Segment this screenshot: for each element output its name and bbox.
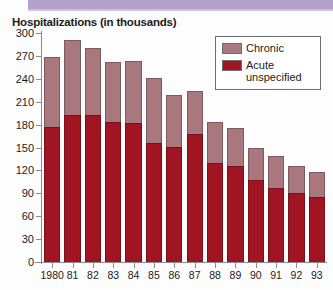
x-axis-tick-mark [296,263,297,268]
y-axis-tick-mark [36,56,42,57]
y-axis-tick-mark [36,102,42,103]
bar-segment-chronic[interactable] [288,166,304,194]
x-axis-tick-label: 84 [128,269,140,281]
header-band [28,0,333,9]
acute-swatch-icon [222,60,242,71]
x-axis-tick-label: 92 [291,269,303,281]
bar-segment-acute[interactable] [248,180,264,262]
x-axis-tick-mark [93,263,94,268]
x-axis-tick-label: 87 [189,269,201,281]
bar-group[interactable] [207,122,223,262]
x-axis-tick-mark [215,263,216,268]
y-axis-tick-label: 60 [4,210,34,222]
legend: Chronic Acute unspecified [215,36,321,90]
bar-group[interactable] [105,62,121,262]
x-axis-tick-label: 1980 [40,269,63,281]
y-axis-tick-mark [36,170,42,171]
header-band-edge [28,9,333,11]
x-axis-tick-mark [174,263,175,268]
y-axis-tick-mark [36,239,42,240]
y-axis-tick-label: 240 [4,73,34,85]
bar-segment-acute[interactable] [64,115,80,262]
bar-segment-acute[interactable] [125,123,141,262]
bar-segment-chronic[interactable] [166,95,182,149]
legend-label-acute: Acute unspecified [246,59,315,83]
bar-segment-chronic[interactable] [207,122,223,163]
y-axis-tick-label: 300 [4,27,34,39]
x-axis-tick-mark [256,263,257,268]
bar-segment-acute[interactable] [146,143,162,262]
y-axis-tick-label: 180 [4,119,34,131]
x-axis-tick-label: 86 [168,269,180,281]
x-axis-tick-mark [154,263,155,268]
x-axis-tick-mark [235,263,236,268]
y-axis-tick-mark [36,193,42,194]
y-axis-labels: 3002702402101801501209060300 [0,0,34,290]
bar-segment-chronic[interactable] [187,91,203,135]
bar-segment-chronic[interactable] [85,48,101,116]
bar-segment-chronic[interactable] [64,40,80,117]
bar-segment-acute[interactable] [288,193,304,262]
x-axis-tick-label: 89 [230,269,242,281]
y-axis-tick-label: 150 [4,142,34,154]
y-axis-tick-label: 120 [4,164,34,176]
x-axis-tick-label: 83 [107,269,119,281]
bar-segment-acute[interactable] [207,163,223,262]
legend-label-chronic: Chronic [246,42,284,54]
page-title: Hospitalizations (in thousands) [12,16,176,28]
y-axis-tick-mark [36,262,42,263]
bar-segment-chronic[interactable] [227,128,243,167]
chart-page: Hospitalizations (in thousands) 30027024… [0,0,333,290]
bar-group[interactable] [309,172,325,262]
x-axis-tick-label: 85 [148,269,160,281]
bar-group[interactable] [248,148,264,262]
x-axis-tick-mark [195,263,196,268]
bar-group[interactable] [44,57,60,262]
y-axis-tick-mark [36,33,42,34]
x-axis-tick-label: 82 [87,269,99,281]
bar-group[interactable] [187,91,203,262]
bar-group[interactable] [227,128,243,262]
x-axis-tick-mark [113,263,114,268]
bar-group[interactable] [146,78,162,262]
legend-item-acute: Acute unspecified [222,59,315,83]
bar-group[interactable] [288,166,304,262]
x-axis-tick-mark [276,263,277,268]
bar-segment-chronic[interactable] [146,78,162,144]
x-axis-tick-label: 88 [209,269,221,281]
y-axis-tick-mark [36,79,42,80]
bar-segment-acute[interactable] [187,134,203,262]
bar-segment-chronic[interactable] [309,172,325,198]
bar-group[interactable] [268,156,284,262]
bar-segment-chronic[interactable] [268,156,284,189]
bar-group[interactable] [125,61,141,262]
bar-segment-chronic[interactable] [44,57,60,127]
bar-segment-acute[interactable] [268,188,284,262]
y-axis-tick-mark [36,216,42,217]
y-axis-tick-label: 210 [4,96,34,108]
bar-group[interactable] [166,95,182,262]
x-axis-tick-label: 93 [311,269,323,281]
bar-segment-acute[interactable] [44,127,60,262]
y-axis-tick-mark [36,125,42,126]
x-axis-tick-mark [317,263,318,268]
x-axis-tick-mark [73,263,74,268]
bar-segment-acute[interactable] [309,197,325,262]
x-axis-tick-mark [52,263,53,268]
bar-group[interactable] [64,40,80,262]
chronic-swatch-icon [222,43,242,54]
y-axis-tick-label: 90 [4,187,34,199]
bar-segment-acute[interactable] [227,166,243,262]
bar-group[interactable] [85,48,101,262]
bar-segment-acute[interactable] [166,147,182,262]
x-axis-tick-label: 90 [250,269,262,281]
bar-segment-chronic[interactable] [125,61,141,124]
legend-item-chronic: Chronic [222,42,315,54]
x-axis-tick-label: 81 [67,269,79,281]
bar-segment-acute[interactable] [85,115,101,262]
y-axis-tick-mark [36,148,42,149]
x-axis-tick-mark [134,263,135,268]
bar-segment-acute[interactable] [105,122,121,262]
bar-segment-chronic[interactable] [105,62,121,123]
bar-segment-chronic[interactable] [248,148,264,181]
